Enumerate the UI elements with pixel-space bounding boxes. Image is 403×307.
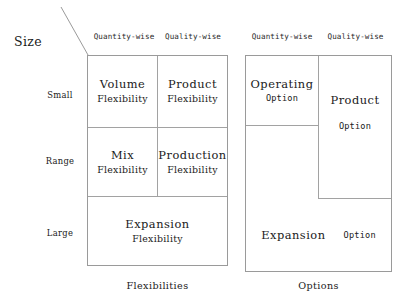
cell-product-option-line2: Option [339,120,371,133]
cell-product-option-line1: Product [330,93,379,108]
cell-operating-option-line1: Operating [251,77,314,92]
cell-production-flexibility-line1: Production [158,148,226,163]
cell-operating-option: Operating Option [246,56,318,125]
cell-product-option: Product Option [319,85,391,141]
cell-operating-option-line2: Option [266,92,298,105]
caption-options: Options [245,280,392,291]
cell-expansion-option: Expansion Option [246,199,391,271]
cell-expansion-option-line1: Expansion [261,228,325,243]
cell-product-flexibility-line1: Product [168,77,217,92]
row-label-range: Range [38,156,82,166]
cell-expansion-option-line2: Option [344,229,376,242]
cell-production-flexibility-line2: Flexibility [167,163,218,177]
row-label-small: Small [38,90,82,100]
cell-mix-flexibility-line1: Mix [111,148,134,163]
cell-volume-flexibility: Volume Flexibility [88,56,157,127]
right-column-header-quality-wise: Quality-wise [319,32,392,41]
cell-volume-flexibility-line1: Volume [100,77,146,92]
row-label-large: Large [38,228,82,238]
right-column-header-quantity-wise: Quantity-wise [246,32,318,41]
cell-expansion-flexibility-line2: Flexibility [132,232,183,246]
options-left-row-divider [246,125,318,126]
axis-label-size: Size [14,34,42,49]
cell-product-flexibility-line2: Flexibility [167,92,218,106]
cell-production-flexibility: Production Flexibility [158,128,227,196]
cell-volume-flexibility-line2: Flexibility [97,92,148,106]
caption-flexibilities: Flexibilities [87,280,228,291]
left-column-header-quality-wise: Quality-wise [159,32,227,41]
cell-product-flexibility: Product Flexibility [158,56,227,127]
diagram-canvas: Size Quantity-wise Quality-wise Quantity… [0,0,403,307]
cell-expansion-flexibility-line1: Expansion [125,217,189,232]
corner-diagonal-line [60,6,92,58]
cell-mix-flexibility-line2: Flexibility [97,163,148,177]
left-column-header-quantity-wise: Quantity-wise [90,32,158,41]
cell-expansion-flexibility: Expansion Flexibility [88,197,227,265]
cell-mix-flexibility: Mix Flexibility [88,128,157,196]
